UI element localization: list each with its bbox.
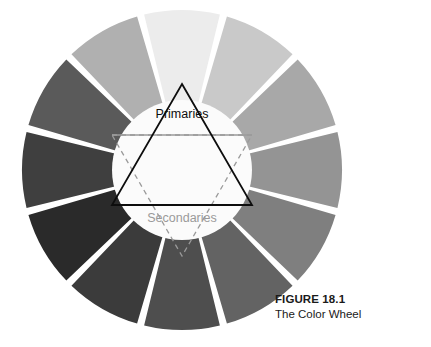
figure-caption: FIGURE 18.1 The Color Wheel [275, 292, 423, 323]
figure-caption-title: FIGURE 18.1 [275, 292, 423, 308]
secondaries-label: Secondaries [147, 211, 217, 225]
figure-caption-subtitle: The Color Wheel [275, 307, 423, 323]
figure-container: Primaries Secondaries FIGURE 18.1 The Co… [0, 0, 431, 347]
primaries-label: Primaries [156, 107, 209, 121]
